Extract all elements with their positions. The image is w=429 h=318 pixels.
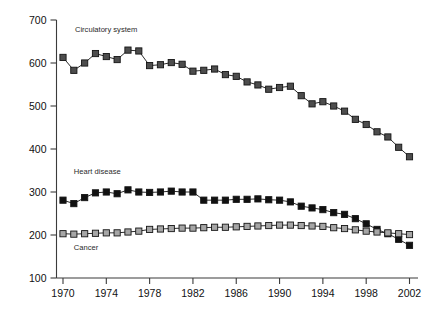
y-axis-tick-label: 200 — [29, 229, 47, 241]
data-point-marker — [363, 121, 369, 127]
y-axis-tick-label: 400 — [29, 143, 47, 155]
y-axis-tick-label: 500 — [29, 100, 47, 112]
data-point-marker — [211, 197, 217, 203]
x-axis-tick-label: 1994 — [311, 287, 335, 299]
data-point-marker — [103, 230, 109, 236]
data-point-marker — [168, 59, 174, 65]
x-axis-tick-label: 1974 — [95, 287, 119, 299]
data-point-marker — [341, 108, 347, 114]
data-point-marker — [103, 53, 109, 59]
data-point-marker — [125, 47, 131, 53]
data-point-marker — [201, 67, 207, 73]
data-point-marker — [352, 227, 358, 233]
data-point-marker — [266, 222, 272, 228]
data-point-marker — [114, 191, 120, 197]
data-point-marker — [406, 242, 412, 248]
y-axis-tick-label: 100 — [29, 272, 47, 284]
data-point-marker — [114, 56, 120, 62]
data-point-marker — [136, 189, 142, 195]
data-point-marker — [352, 116, 358, 122]
x-axis-tick-label: 1970 — [51, 287, 75, 299]
data-point-marker — [287, 222, 293, 228]
data-point-marker — [168, 225, 174, 231]
data-point-marker — [385, 230, 391, 236]
data-point-marker — [298, 222, 304, 228]
data-point-marker — [266, 86, 272, 92]
data-point-marker — [309, 223, 315, 229]
series-annotation-label: Cancer — [74, 243, 99, 252]
data-point-marker — [287, 199, 293, 205]
data-point-marker — [60, 197, 66, 203]
data-point-marker — [179, 225, 185, 231]
data-point-marker — [103, 189, 109, 195]
data-point-marker — [190, 225, 196, 231]
series-cancer — [60, 222, 413, 238]
data-point-marker — [125, 187, 131, 193]
data-point-marker — [374, 129, 380, 135]
data-point-marker — [157, 189, 163, 195]
data-point-marker — [157, 226, 163, 232]
data-point-marker — [147, 62, 153, 68]
data-point-marker — [244, 196, 250, 202]
data-point-marker — [201, 225, 207, 231]
data-point-marker — [136, 48, 142, 54]
data-point-marker — [179, 61, 185, 67]
mortality-line-chart: 1002003004005006007001970197419781982198… — [0, 0, 429, 318]
data-point-marker — [374, 229, 380, 235]
data-point-marker — [276, 222, 282, 228]
data-point-marker — [320, 207, 326, 213]
data-point-marker — [363, 228, 369, 234]
data-point-marker — [211, 224, 217, 230]
data-point-marker — [406, 154, 412, 160]
data-point-marker — [341, 225, 347, 231]
series-heart-disease — [60, 187, 413, 249]
x-axis-tick-label: 1978 — [138, 287, 162, 299]
data-point-marker — [190, 189, 196, 195]
x-axis-tick-label: 1998 — [355, 287, 379, 299]
data-point-marker — [222, 197, 228, 203]
data-point-marker — [92, 190, 98, 196]
data-point-marker — [71, 201, 77, 207]
data-point-marker — [406, 231, 412, 237]
data-point-marker — [331, 103, 337, 109]
data-point-marker — [255, 82, 261, 88]
data-point-marker — [179, 189, 185, 195]
data-point-marker — [276, 84, 282, 90]
data-point-marker — [147, 226, 153, 232]
chart-container: 1002003004005006007001970197419781982198… — [0, 0, 429, 318]
data-point-marker — [157, 62, 163, 68]
data-point-marker — [82, 60, 88, 66]
series-annotation-label: Heart disease — [74, 167, 121, 176]
data-point-marker — [222, 224, 228, 230]
x-axis-tick-label: 2002 — [398, 287, 422, 299]
data-point-marker — [71, 231, 77, 237]
data-point-marker — [244, 223, 250, 229]
data-point-marker — [276, 197, 282, 203]
data-point-marker — [396, 231, 402, 237]
y-axis-tick-label: 700 — [29, 14, 47, 26]
data-point-marker — [60, 231, 66, 237]
data-point-marker — [396, 144, 402, 150]
data-point-marker — [92, 50, 98, 56]
x-axis-tick-label: 1990 — [268, 287, 292, 299]
data-point-marker — [352, 216, 358, 222]
data-point-marker — [233, 196, 239, 202]
series-annotation-label: Circulatory system — [75, 25, 137, 34]
data-point-marker — [190, 68, 196, 74]
data-point-marker — [320, 99, 326, 105]
data-point-marker — [82, 231, 88, 237]
data-point-marker — [298, 93, 304, 99]
series-layer — [60, 47, 413, 248]
data-point-marker — [309, 101, 315, 107]
data-point-marker — [331, 210, 337, 216]
data-point-marker — [309, 205, 315, 211]
data-point-marker — [255, 223, 261, 229]
data-point-marker — [385, 134, 391, 140]
series-line — [63, 50, 410, 157]
data-point-marker — [211, 66, 217, 72]
y-axis-tick-label: 600 — [29, 57, 47, 69]
x-axis-tick-label: 1982 — [181, 287, 205, 299]
data-point-marker — [92, 230, 98, 236]
data-point-marker — [331, 225, 337, 231]
data-point-marker — [60, 54, 66, 60]
